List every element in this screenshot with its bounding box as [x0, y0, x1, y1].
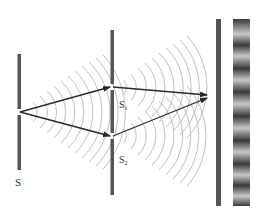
interference-fringe-pattern: [233, 19, 250, 206]
slit1-wavefronts: [124, 36, 207, 138]
screen: [216, 19, 221, 206]
double-slit-diagram: S S1 S2: [0, 0, 267, 216]
slit2-label: S2: [119, 154, 128, 166]
ray-s1-to-screen: [113, 87, 207, 95]
double-slit-barrier: [111, 30, 115, 195]
slit2-wavefronts: [124, 86, 206, 186]
source-label: S: [15, 176, 21, 188]
slit1-label: S1: [119, 99, 128, 111]
